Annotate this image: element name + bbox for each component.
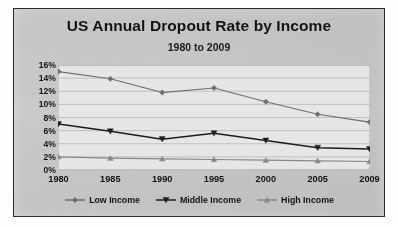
x-axis-tick-label: 1995 (204, 174, 224, 184)
y-axis-tick-label: 6% (14, 126, 56, 136)
chart-subtitle: 1980 to 2009 (14, 41, 384, 53)
x-axis: 1980198519901995200020052009 (58, 174, 370, 188)
plot-area (58, 65, 370, 170)
legend-item-middle-income[interactable]: Middle Income (155, 195, 241, 205)
y-axis-tick-label: 4% (14, 139, 56, 149)
legend-label: Low Income (89, 195, 140, 205)
scanned-page: US Annual Dropout Rate by Income 1980 to… (0, 0, 398, 226)
legend-label: Middle Income (180, 195, 241, 205)
x-axis-tick-label: 2000 (256, 174, 276, 184)
legend-marker-triangle-up-icon (256, 195, 278, 205)
x-axis-tick-label: 1990 (152, 174, 172, 184)
x-axis-tick-label: 1980 (48, 174, 68, 184)
legend-item-high-income[interactable]: High Income (256, 195, 334, 205)
legend-marker-triangle-down-icon (155, 195, 177, 205)
x-axis-tick-label: 2009 (359, 174, 379, 184)
y-axis-tick-label: 16% (14, 60, 56, 70)
legend-marker-diamond-icon (64, 195, 86, 205)
y-axis-tick-label: 14% (14, 73, 56, 83)
x-axis-tick-label: 2005 (307, 174, 327, 184)
x-axis-tick-label: 1985 (100, 174, 120, 184)
line-chart-svg (58, 65, 370, 170)
chart-title: US Annual Dropout Rate by Income (14, 17, 384, 35)
legend-item-low-income[interactable]: Low Income (64, 195, 140, 205)
y-axis-tick-label: 2% (14, 152, 56, 162)
chart-legend: Low IncomeMiddle IncomeHigh Income (14, 195, 384, 205)
y-axis: 16%14%12%10%8%6%4%2%0% (14, 65, 56, 170)
legend-label: High Income (281, 195, 334, 205)
y-axis-tick-label: 10% (14, 99, 56, 109)
data-point-marker (72, 197, 77, 202)
y-axis-tick-label: 12% (14, 86, 56, 96)
y-axis-tick-label: 8% (14, 113, 56, 123)
chart-container: US Annual Dropout Rate by Income 1980 to… (13, 8, 385, 217)
